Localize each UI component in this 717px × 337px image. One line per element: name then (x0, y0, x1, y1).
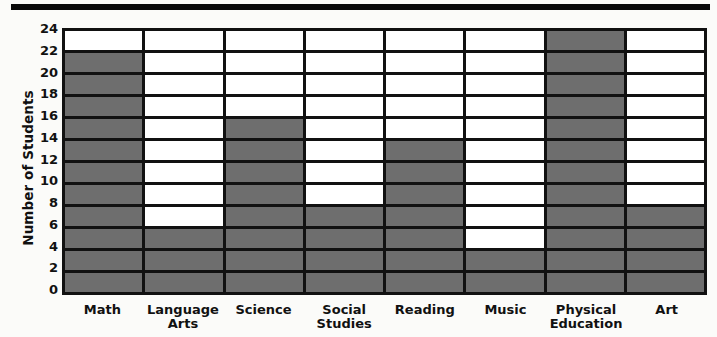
bar-column[interactable] (226, 31, 306, 292)
y-tick-label: 18 (26, 87, 58, 100)
bar-column[interactable] (466, 31, 546, 292)
bar-column[interactable] (145, 31, 225, 292)
y-tick-label: 10 (26, 174, 58, 187)
y-tick-label: 14 (26, 131, 58, 144)
x-tick-label: Reading (385, 299, 466, 337)
y-tick-label: 20 (26, 66, 58, 79)
y-tick-label: 6 (26, 218, 58, 231)
x-axis-tick-labels: MathLanguage ArtsScienceSocial StudiesRe… (62, 299, 707, 337)
bar[interactable] (145, 227, 222, 292)
bar[interactable] (65, 53, 142, 292)
y-axis-tick-labels: 242220181614121086420 (26, 22, 58, 295)
x-tick-label: Language Arts (143, 299, 224, 337)
x-tick-label: Science (223, 299, 304, 337)
y-tick-label: 24 (26, 22, 58, 35)
bar-column[interactable] (306, 31, 386, 292)
y-tick-label: 22 (26, 44, 58, 57)
bar[interactable] (386, 140, 463, 292)
top-divider-rule (11, 4, 710, 10)
y-tick-label: 12 (26, 153, 58, 166)
bar[interactable] (306, 205, 383, 292)
bar[interactable] (627, 205, 704, 292)
y-tick-label: 2 (26, 261, 58, 274)
bar-column[interactable] (386, 31, 466, 292)
x-tick-label: Social Studies (304, 299, 385, 337)
x-tick-label: Physical Education (546, 299, 627, 337)
x-tick-label: Music (465, 299, 546, 337)
chart-plot-area (62, 28, 707, 295)
bar[interactable] (547, 31, 624, 292)
bar-column[interactable] (547, 31, 627, 292)
bar[interactable] (226, 118, 303, 292)
y-tick-label: 4 (26, 240, 58, 253)
x-tick-label: Math (62, 299, 143, 337)
y-tick-label: 0 (26, 283, 58, 296)
y-tick-label: 16 (26, 109, 58, 122)
x-tick-label: Art (626, 299, 707, 337)
bar-column[interactable] (65, 31, 145, 292)
bar-column[interactable] (627, 31, 704, 292)
y-tick-label: 8 (26, 196, 58, 209)
bar[interactable] (466, 249, 543, 293)
